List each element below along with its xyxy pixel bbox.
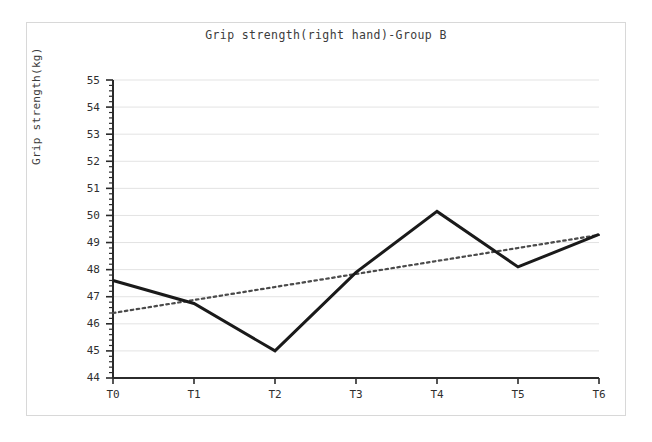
gridlines bbox=[113, 80, 599, 351]
grip-strength-line-series bbox=[113, 211, 599, 351]
y-axis-major-ticks bbox=[106, 80, 113, 378]
chart-screenshot: Grip strength(right hand)-Group B Grip s… bbox=[0, 0, 652, 442]
plot-area bbox=[0, 0, 652, 442]
